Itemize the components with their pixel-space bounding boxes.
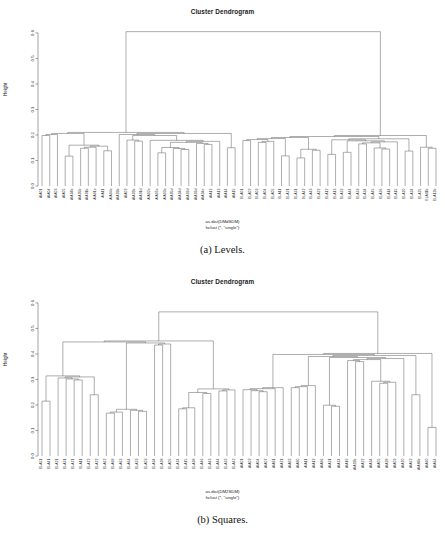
leaf-label: AIA81 bbox=[272, 458, 276, 468]
plot-subtitle: as.dist(DMdSDM) hclust (*, "single") bbox=[0, 219, 445, 231]
figure-caption-b: (b) Squares. bbox=[0, 514, 445, 525]
leaf-label: ELA44 bbox=[216, 458, 220, 469]
leaf-label: AIA60 bbox=[425, 458, 429, 468]
leaf-label: ELA74 bbox=[176, 458, 180, 469]
leaf-label: ELA03 bbox=[255, 188, 259, 199]
leaf-label: AIA71 bbox=[280, 458, 284, 468]
leaf-label: ELA43 bbox=[309, 188, 313, 199]
leaf-label: AIA03c bbox=[163, 188, 167, 200]
leaf-label: AIA01c bbox=[93, 188, 97, 200]
figure-caption-a: (a) Levels. bbox=[0, 244, 445, 255]
leaf-label: AIA12 bbox=[312, 458, 316, 468]
leaf-label: ELA26 bbox=[379, 188, 383, 199]
y-tick-label: 0.2 bbox=[30, 401, 35, 408]
leaf-label: ELA32 bbox=[340, 188, 344, 199]
dendrogram-svg: 0.00.10.20.30.40.50.6ELA51ELA41ELA21ELA3… bbox=[0, 270, 445, 498]
leaf-label: AIA01d bbox=[139, 188, 143, 200]
dendrogram-plot-levels: 0.00.10.20.30.40.50.6AIA01AIA04AIA03AIA0… bbox=[0, 0, 445, 228]
leaf-label: AIA02b bbox=[353, 458, 357, 470]
y-tick-label: 0.0 bbox=[30, 182, 35, 189]
leaf-label: AIA12 bbox=[209, 188, 213, 198]
leaf-label: AIA04 bbox=[47, 188, 51, 198]
leaf-label: AIA02 bbox=[124, 188, 128, 198]
leaf-label: AIA05c bbox=[155, 188, 159, 200]
leaf-label: ELA41 bbox=[47, 458, 51, 469]
leaf-label: ELA15 bbox=[394, 188, 398, 199]
leaf-label: ELA51 bbox=[39, 458, 43, 469]
leaf-label: ELA20 bbox=[402, 188, 406, 199]
leaf-label: AIA62 bbox=[409, 458, 413, 468]
leaf-label: AIA03d bbox=[194, 188, 198, 200]
leaf-label: ELA21 bbox=[286, 188, 290, 199]
leaf-label: AIA16 bbox=[345, 458, 349, 468]
dendrogram-svg: 0.00.10.20.30.40.50.6AIA01AIA04AIA03AIA0… bbox=[0, 0, 445, 228]
leaf-label: AIA05b bbox=[78, 188, 82, 200]
leaf-label: ELA05 bbox=[168, 458, 172, 469]
y-tick-label: 0.1 bbox=[30, 157, 35, 164]
leaf-label: ELA02 bbox=[248, 188, 252, 199]
leaf-label: AIA01b bbox=[85, 188, 89, 200]
leaf-label: ELA05 bbox=[271, 188, 275, 199]
leaf-label: ELA25 bbox=[418, 188, 422, 199]
x-axis-leaf-labels: ELA51ELA41ELA21ELA31ELA71ELA11ELA72ELA22… bbox=[39, 458, 437, 470]
leaf-label: AIA15 bbox=[232, 188, 236, 198]
dendrogram-links bbox=[42, 32, 436, 186]
leaf-label: AIA02d bbox=[186, 188, 190, 200]
leaf-label: ELA72 bbox=[87, 458, 91, 469]
leaf-label: AIA04d bbox=[178, 188, 182, 200]
leaf-label: ELA62 bbox=[103, 458, 107, 469]
leaf-label: AIA05d bbox=[170, 188, 174, 200]
y-tick-label: 0.4 bbox=[30, 80, 35, 87]
leaf-label: AIA04 bbox=[256, 458, 260, 468]
leaf-label: AIA28 bbox=[385, 458, 389, 468]
leaf-label: ELA42 bbox=[232, 458, 236, 469]
figure-page: Cluster Dendrogram Height 0.00.10.20.30.… bbox=[0, 0, 445, 542]
dendrogram-panel-levels: Cluster Dendrogram Height 0.00.10.20.30.… bbox=[0, 0, 445, 228]
x-axis-leaf-labels: AIA01AIA04AIA03AIA05AIA04bAIA05bAIA01bAI… bbox=[39, 188, 437, 201]
leaf-label: ELA24 bbox=[410, 188, 414, 199]
leaf-label: ELA71 bbox=[71, 458, 75, 469]
y-tick-label: 0.3 bbox=[30, 376, 35, 383]
leaf-label: ELA11b bbox=[425, 188, 429, 200]
leaf-label: ELA43 bbox=[208, 458, 212, 469]
leaf-label: AIA64 bbox=[433, 458, 437, 468]
leaf-label: AIA13 bbox=[217, 188, 221, 198]
leaf-label: AIA70 bbox=[401, 458, 405, 468]
leaf-label: ELA15 bbox=[184, 458, 188, 469]
leaf-label: ELA13 bbox=[333, 188, 337, 199]
y-tick-label: 0.5 bbox=[30, 325, 35, 332]
leaf-label: AIA86 bbox=[320, 458, 324, 468]
leaf-label: ELA11 bbox=[79, 458, 83, 468]
leaf-label: ELA22 bbox=[317, 188, 321, 199]
leaf-label: ELA34 bbox=[152, 458, 156, 469]
plot-subtitle: as.dist(DM2SDM) hclust (*, "single") bbox=[0, 489, 445, 501]
y-axis: 0.00.10.20.30.40.50.6 bbox=[30, 29, 38, 189]
leaf-label: AIA07 bbox=[264, 458, 268, 468]
leaf-label: ELA38 bbox=[192, 458, 196, 469]
dendrogram-plot-squares: 0.00.10.20.30.40.50.6ELA51ELA41ELA21ELA3… bbox=[0, 270, 445, 498]
leaf-label: ELA31 bbox=[294, 188, 298, 199]
leaf-label: AIA02b bbox=[132, 188, 136, 200]
leaf-label: AIA04c bbox=[109, 188, 113, 200]
leaf-label: ELA22 bbox=[95, 458, 99, 469]
leaf-label: ELA34 bbox=[363, 188, 367, 199]
leaf-label: ELA04 bbox=[263, 188, 267, 199]
leaf-label: ELA31 bbox=[63, 458, 67, 469]
leaf-label: AIA04e bbox=[201, 188, 205, 200]
leaf-label: AIA05 bbox=[62, 188, 66, 198]
subtitle-line-2: hclust (*, "single") bbox=[0, 225, 445, 231]
y-tick-label: 0.6 bbox=[30, 299, 35, 306]
y-tick-label: 0.4 bbox=[30, 350, 35, 357]
leaf-label: ELA33 bbox=[356, 188, 360, 199]
leaf-label: ELA14 bbox=[387, 188, 391, 199]
leaf-label: AIA02 bbox=[248, 458, 252, 468]
leaf-label: ELA12 bbox=[325, 188, 329, 199]
leaf-label: AIA34 bbox=[369, 458, 373, 468]
leaf-label: AIA74 bbox=[337, 458, 341, 468]
leaf-label: AIA03b bbox=[116, 188, 120, 200]
dendrogram-links bbox=[42, 312, 436, 456]
leaf-label: ELA32 bbox=[224, 458, 228, 469]
leaf-label: ELA03 bbox=[144, 458, 148, 469]
leaf-label: AIA01 bbox=[39, 188, 43, 198]
y-tick-label: 0.5 bbox=[30, 55, 35, 62]
